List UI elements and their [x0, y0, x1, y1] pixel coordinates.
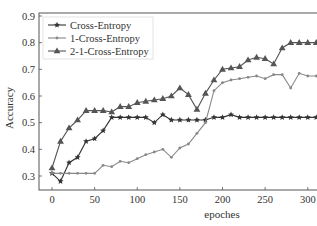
- x-tick-label: 200: [215, 194, 231, 205]
- legend-label: Cross-Entropy: [70, 20, 132, 31]
- y-tick-label: 0.4: [22, 144, 36, 155]
- dot-marker-icon: [119, 160, 122, 163]
- dot-marker-icon: [59, 172, 62, 175]
- dot-marker-icon: [289, 87, 292, 90]
- dot-marker-icon: [85, 172, 88, 175]
- dot-marker-icon: [102, 164, 105, 167]
- dot-marker-icon: [51, 172, 54, 175]
- y-tick-label: 0.6: [22, 91, 35, 102]
- dot-marker-icon: [187, 143, 190, 146]
- dot-marker-icon: [161, 148, 164, 151]
- y-tick-label: 0.9: [22, 11, 35, 22]
- dot-marker-icon: [93, 172, 96, 175]
- legend-label: 1-Cross-Entropy: [70, 33, 141, 44]
- y-tick-label: 0.3: [22, 171, 35, 182]
- dot-marker-icon: [230, 79, 233, 82]
- dot-marker-icon: [247, 76, 250, 79]
- legend-label: 2-1-Cross-Entropy: [70, 46, 149, 57]
- y-axis-label: Accuracy: [3, 86, 15, 129]
- dot-marker-icon: [221, 81, 224, 84]
- dot-marker-icon: [56, 37, 59, 40]
- dot-marker-icon: [153, 151, 156, 154]
- x-tick-label: 100: [129, 194, 145, 205]
- dot-marker-icon: [264, 77, 267, 80]
- x-tick-label: 150: [172, 194, 188, 205]
- y-tick-label: 0.7: [22, 64, 35, 75]
- x-tick-label: 0: [49, 194, 54, 205]
- dot-marker-icon: [281, 73, 284, 76]
- dot-marker-icon: [127, 161, 130, 164]
- dot-marker-icon: [298, 72, 301, 75]
- x-tick-label: 250: [257, 194, 273, 205]
- dot-marker-icon: [68, 172, 71, 175]
- dot-marker-icon: [196, 132, 199, 135]
- dot-marker-icon: [110, 165, 113, 168]
- dot-marker-icon: [170, 156, 173, 159]
- dot-marker-icon: [76, 172, 79, 175]
- x-axis-label: epoches: [204, 208, 239, 220]
- dot-marker-icon: [306, 75, 309, 78]
- chart-canvas: 0501001502002503003504000.30.40.50.60.70…: [0, 0, 317, 226]
- dot-marker-icon: [238, 77, 241, 80]
- y-tick-label: 0.8: [22, 37, 35, 48]
- dot-marker-icon: [255, 75, 258, 78]
- dot-marker-icon: [178, 147, 181, 150]
- dot-marker-icon: [144, 153, 147, 156]
- x-tick-label: 300: [300, 194, 316, 205]
- legend: Cross-Entropy1-Cross-Entropy2-1-Cross-En…: [43, 17, 153, 59]
- y-tick-label: 0.5: [22, 117, 35, 128]
- x-tick-label: 50: [89, 194, 100, 205]
- dot-marker-icon: [204, 121, 207, 124]
- dot-marker-icon: [213, 89, 216, 92]
- accuracy-line-chart: 0501001502002503003504000.30.40.50.60.70…: [0, 0, 317, 226]
- dot-marker-icon: [272, 73, 275, 76]
- dot-marker-icon: [136, 157, 139, 160]
